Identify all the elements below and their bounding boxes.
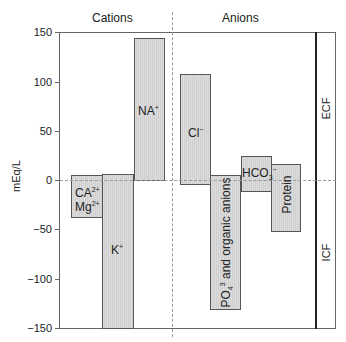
label-po4-organic-anions: PO43 and organic anions: [220, 180, 233, 308]
ytick-mark: [55, 279, 60, 280]
ytick-mark: [55, 131, 60, 132]
ytick-mark: [55, 32, 60, 33]
y-axis-label: mEq/L: [10, 158, 22, 194]
label-cl: Cl−: [188, 127, 203, 140]
ytick-mark: [55, 229, 60, 230]
anions-header: Anions: [222, 11, 259, 25]
label-hco3: HCO3−: [242, 167, 277, 180]
label-k: K+: [111, 244, 123, 257]
ytick-label: 0: [46, 174, 52, 186]
label-ca-mg: CA2+ Mg2+: [75, 186, 100, 214]
plot-top-border: [59, 32, 336, 33]
plot-bottom-border: [59, 328, 336, 329]
ytick-mark: [55, 328, 60, 329]
label-ecf: ECF: [320, 93, 333, 125]
ytick-label: −50: [33, 223, 52, 235]
ytick-label: −150: [27, 322, 52, 334]
label-na: NA+: [138, 105, 159, 118]
label-protein: Protein: [281, 170, 294, 220]
ytick-label: 150: [34, 26, 52, 38]
ytick-label: 100: [34, 76, 52, 88]
zero-line: [60, 180, 336, 181]
cation-anion-divider: [172, 12, 173, 337]
ytick-mark: [55, 82, 60, 83]
ytick-label: 50: [40, 125, 52, 137]
label-icf: ICF: [320, 237, 333, 269]
cations-header: Cations: [92, 11, 133, 25]
ytick-label: −100: [27, 273, 52, 285]
